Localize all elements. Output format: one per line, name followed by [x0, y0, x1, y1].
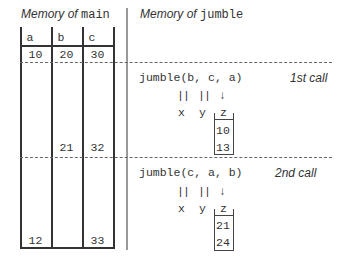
call-2-label: 2nd call: [275, 166, 316, 180]
value-arrow-z: ↓: [219, 185, 226, 198]
ref-mark-x: ||: [177, 89, 189, 102]
column-header-a: a: [20, 31, 40, 44]
main-memory-title: Memory of main: [21, 4, 110, 22]
main-memory-title-code: main: [81, 8, 110, 22]
param-z-box-rule: [215, 215, 233, 216]
z-value-2: 24: [216, 236, 230, 249]
value-c-after-call-1: 32: [82, 141, 113, 154]
value-c-after-call-2: 33: [82, 234, 113, 247]
value-a-initial: 10: [20, 48, 51, 61]
ref-mark-x: ||: [177, 185, 189, 198]
param-x: x: [178, 106, 185, 119]
value-b-initial: 20: [51, 48, 82, 61]
param-x: x: [178, 202, 185, 215]
value-arrow-z: ↓: [219, 89, 226, 102]
column-header-c: c: [82, 31, 102, 44]
column-header-b: b: [51, 31, 71, 44]
z-value-1: 10: [216, 124, 230, 137]
param-z-box-rule: [215, 119, 233, 120]
call-2-expression: jumble(c, a, b): [139, 166, 243, 179]
value-c-initial: 30: [82, 48, 113, 61]
table-border-right: [113, 27, 115, 248]
z-value-2: 13: [216, 141, 230, 154]
main-memory-title-prefix: Memory of: [21, 7, 81, 21]
value-a-after-call-2: 12: [20, 234, 51, 247]
value-b-after-call-1: 21: [51, 141, 82, 154]
param-y: y: [199, 202, 206, 215]
param-y: y: [199, 106, 206, 119]
z-value-1: 21: [216, 219, 230, 232]
ref-mark-y: ||: [198, 185, 210, 198]
call-1-label: 1st call: [290, 71, 327, 85]
table-bottom-rule: [20, 247, 115, 249]
call-1-expression: jumble(b, c, a): [139, 71, 243, 84]
dashed-divider-before-call-2: [20, 157, 332, 158]
dashed-divider-before-call-1: [20, 62, 332, 63]
jumble-memory-title: Memory of jumble: [140, 4, 243, 22]
jumble-memory-title-code: jumble: [200, 8, 243, 22]
jumble-memory-title-prefix: Memory of: [140, 7, 200, 21]
ref-mark-y: ||: [198, 89, 210, 102]
table-header-rule: [20, 45, 115, 47]
panel-separator: [126, 8, 128, 250]
